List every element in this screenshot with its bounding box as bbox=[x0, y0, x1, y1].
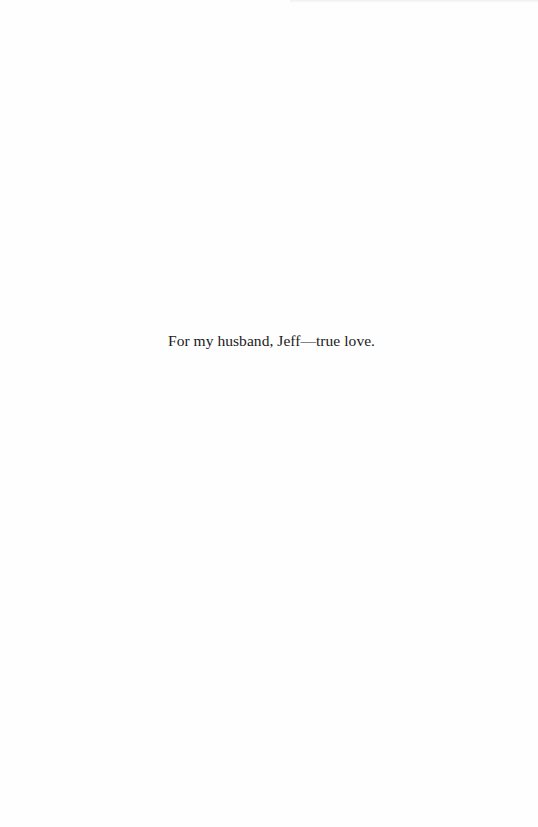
book-page: For my husband, Jeff—true love. bbox=[0, 0, 538, 827]
dedication-text: For my husband, Jeff—true love. bbox=[168, 332, 368, 350]
scan-edge-shadow bbox=[290, 0, 538, 3]
